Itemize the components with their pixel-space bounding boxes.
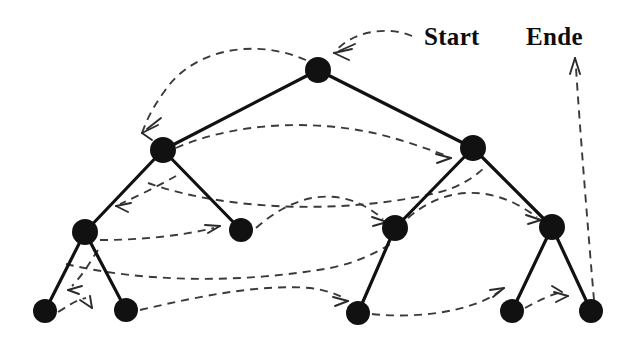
start-label: Start <box>424 23 480 50</box>
tree-node-LR[interactable] <box>229 218 253 242</box>
tree-node-R[interactable] <box>460 135 486 161</box>
traversal-segment-left-to-right <box>176 125 447 156</box>
tree-edge-RR-RRL <box>512 227 552 311</box>
tree-node-RR[interactable] <box>539 214 565 240</box>
traversal-segment-LLR-to-RLL <box>140 287 344 310</box>
arrowhead-start-to-root <box>334 44 355 60</box>
tree-traversal-figure: Start Ende <box>0 0 633 344</box>
tree-edge-root-R <box>318 70 473 148</box>
arrowhead-LLL-to-LLR <box>80 296 92 308</box>
tree-node-RL[interactable] <box>382 215 408 241</box>
arrowhead-root-to-left <box>142 118 161 140</box>
arrowhead-LL-to-LLL <box>68 286 82 294</box>
tree-edge-root-L <box>163 70 318 150</box>
tree-diagram-canvas: Start Ende <box>0 0 633 344</box>
arrowhead-RRR-to-ende <box>570 58 580 74</box>
arrowhead-LLR-to-RLL <box>333 297 348 306</box>
traversal-segment-LL-to-LR <box>100 228 214 240</box>
tree-edge-group <box>45 70 591 313</box>
tree-node-L[interactable] <box>150 137 176 163</box>
tree-edge-LL-LLL <box>45 232 85 311</box>
traversal-segment-RRL-to-RRR <box>525 292 562 308</box>
arrowhead-left-to-right <box>436 154 451 163</box>
tree-edge-R-RL <box>395 148 473 228</box>
tree-node-LLR[interactable] <box>114 298 138 322</box>
traversal-segment-RRR-to-ende <box>576 68 594 300</box>
arrowhead-RL-to-RR <box>526 215 541 224</box>
tree-node-root[interactable] <box>305 57 331 83</box>
arrowhead-L-to-LL <box>116 203 131 212</box>
ende-label: Ende <box>526 23 583 50</box>
tree-node-LL[interactable] <box>72 219 98 245</box>
traversal-segment-LR-to-RL <box>256 197 383 228</box>
tree-node-RLL[interactable] <box>346 301 370 325</box>
tree-node-RRR[interactable] <box>579 299 603 323</box>
arrowhead-RLL-to-RRL <box>490 288 504 297</box>
tree-edge-R-RR <box>473 148 552 227</box>
tree-edge-L-LR <box>163 150 241 230</box>
traversal-segment-RLL-to-RRL <box>372 291 500 316</box>
tree-node-LLL[interactable] <box>33 299 57 323</box>
tree-edge-RL-RLL <box>358 228 395 313</box>
tree-edge-L-LL <box>85 150 163 232</box>
traversal-segment-root-to-left <box>142 49 306 133</box>
tree-edge-RR-RRR <box>552 227 591 311</box>
traversal-segment-level3-long-arc <box>66 243 392 279</box>
tree-node-RRL[interactable] <box>500 299 524 323</box>
